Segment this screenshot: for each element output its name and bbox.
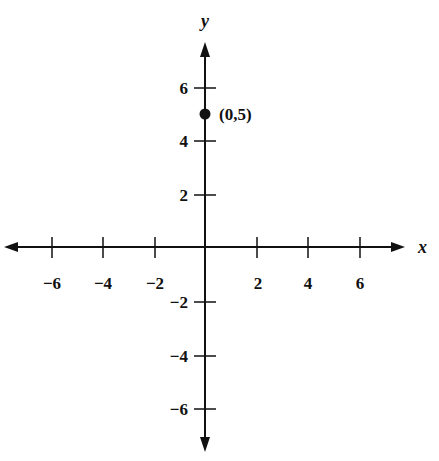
x-axis-right-arrow-icon [391,242,405,252]
x-tick-label: −2 [146,274,164,293]
y-tick-label: 2 [180,186,189,205]
y-tick-label: −4 [170,347,189,366]
x-tick-label: 6 [356,274,365,293]
y-tick-label: −6 [170,400,188,419]
x-tick-label: 4 [304,274,313,293]
coordinate-plane: −6 −4 −2 2 4 6 6 4 2 −2 −4 −6 x y (0,5) [0,0,439,461]
point-marker [200,109,211,120]
y-tick-label: 6 [180,79,189,98]
y-tick-label: −2 [170,293,188,312]
x-tick-label: 2 [254,274,263,293]
x-tick-label: −4 [94,274,113,293]
y-axis-down-arrow-icon [200,437,210,452]
y-axis-up-arrow-icon [200,42,210,57]
x-tick-label: −6 [43,274,61,293]
x-axis-label: x [417,237,427,257]
point-label: (0,5) [219,105,252,124]
x-axis-left-arrow-icon [4,242,18,252]
y-axis-label: y [199,11,210,31]
y-tick-label: 4 [180,132,189,151]
